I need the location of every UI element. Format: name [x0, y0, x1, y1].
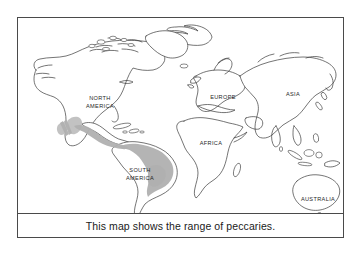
- island-java: [298, 162, 312, 167]
- arctic-island-f: [128, 44, 134, 47]
- label-europe: EUROPE: [210, 94, 236, 100]
- arctic-island-c: [121, 38, 127, 41]
- arctic-island-d: [89, 44, 95, 47]
- indochina-detail: [293, 126, 301, 145]
- island-borneo: [304, 150, 314, 157]
- arctic-island-a: [97, 40, 105, 44]
- figure-frame: NORTH AMERICA SOUTH AMERICA EUROPE ASIA …: [17, 17, 344, 238]
- label-north-america-line1: NORTH: [89, 95, 111, 101]
- landmass-africa: [177, 118, 243, 198]
- island-japan-south: [315, 101, 324, 111]
- island-sumatra: [287, 149, 303, 161]
- caption-band: This map shows the range of peccaries.: [18, 213, 343, 237]
- label-north-america-line2: AMERICA: [86, 103, 114, 109]
- island-puerto-rico: [140, 131, 145, 133]
- landmass-asia: [240, 57, 336, 138]
- island-jamaica: [123, 131, 128, 133]
- label-asia: ASIA: [286, 91, 300, 97]
- label-south-america-line1: SOUTH: [129, 167, 150, 173]
- island-philippines: [313, 133, 320, 143]
- island-sri-lanka: [279, 147, 282, 152]
- island-hispaniola: [129, 129, 139, 134]
- island-iceland: [180, 64, 188, 68]
- label-south-america-line2: AMERICA: [126, 175, 154, 181]
- arctic-island-e: [102, 47, 109, 50]
- figure-container: NORTH AMERICA SOUTH AMERICA EUROPE ASIA …: [0, 0, 362, 257]
- landmass-australia: [293, 175, 340, 211]
- label-australia: AUSTRALIA: [301, 196, 335, 202]
- arctic-island-b: [110, 36, 117, 40]
- island-japan-north: [320, 91, 328, 100]
- figure-caption: This map shows the range of peccaries.: [86, 220, 275, 232]
- label-africa: AFRICA: [200, 140, 223, 146]
- world-map-svg: NORTH AMERICA SOUTH AMERICA EUROPE ASIA …: [18, 18, 343, 213]
- island-madagascar: [232, 162, 242, 177]
- island-cuba: [113, 122, 132, 130]
- island-sulawesi: [316, 152, 322, 158]
- new-guinea-detail: [325, 161, 340, 167]
- world-map: NORTH AMERICA SOUTH AMERICA EUROPE ASIA …: [18, 18, 343, 213]
